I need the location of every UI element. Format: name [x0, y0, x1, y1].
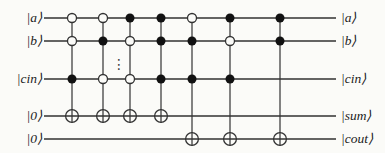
- control-one-dot: [68, 75, 77, 84]
- control-one-dot: [226, 14, 235, 23]
- wire-label-left-b: |b⟩: [0, 31, 42, 51]
- circuit-canvas: [0, 0, 385, 153]
- control-one-dot: [157, 14, 166, 23]
- wire-label-left-cin: |cin⟩: [0, 69, 42, 89]
- wire-label-right-sum: |sum⟩: [341, 106, 371, 126]
- wire-label-right-cout: |cout⟩: [341, 129, 373, 149]
- control-zero-dot: [126, 37, 135, 46]
- control-one-dot: [99, 37, 108, 46]
- wire-label-left-a: |a⟩: [0, 8, 42, 28]
- control-zero-dot: [99, 75, 108, 84]
- control-one-dot: [276, 14, 285, 23]
- continuation-ellipsis: ⋮: [112, 57, 126, 71]
- full-adder-circuit-figure: |a⟩ |b⟩ |cin⟩ |0⟩ |0⟩ |a⟩ |b⟩ |cin⟩ |sum…: [0, 0, 385, 153]
- control-zero-dot: [99, 14, 108, 23]
- wire-label-left-zero-sum: |0⟩: [0, 106, 42, 126]
- control-one-dot: [157, 75, 166, 84]
- control-zero-dot: [68, 14, 77, 23]
- wire-label-right-b: |b⟩: [341, 31, 356, 51]
- wire-label-left-zero-cout: |0⟩: [0, 129, 42, 149]
- wire-label-right-cin: |cin⟩: [341, 69, 366, 89]
- control-one-dot: [126, 14, 135, 23]
- control-one-dot: [188, 75, 197, 84]
- control-one-dot: [276, 37, 285, 46]
- control-one-dot: [188, 37, 197, 46]
- wire-label-right-a: |a⟩: [341, 8, 356, 28]
- control-zero-dot: [68, 37, 77, 46]
- control-zero-dot: [226, 37, 235, 46]
- control-one-dot: [157, 37, 166, 46]
- control-one-dot: [226, 75, 235, 84]
- control-zero-dot: [188, 14, 197, 23]
- control-zero-dot: [126, 75, 135, 84]
